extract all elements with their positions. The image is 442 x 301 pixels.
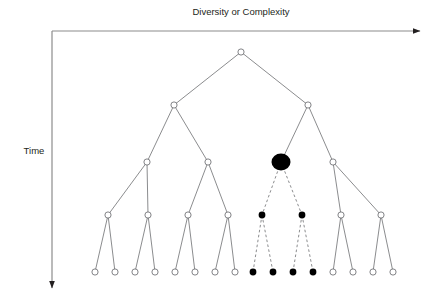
tree-node-open — [152, 269, 158, 275]
branch-solid — [308, 105, 333, 162]
branch-solid — [174, 105, 208, 162]
branch-dashed — [293, 215, 302, 272]
tree-node-open — [212, 269, 218, 275]
tree-node-filled — [259, 212, 266, 219]
branch-solid — [228, 215, 235, 272]
tree-node-filled — [250, 269, 257, 276]
branches-group — [95, 52, 393, 272]
nodes-group — [92, 49, 396, 276]
tree-node-open — [378, 212, 384, 218]
tree-node-open — [105, 212, 111, 218]
tree-node-open — [390, 269, 396, 275]
tree-node-open — [92, 269, 98, 275]
tree-diagram-figure: Diversity or Complexity Time — [0, 0, 442, 301]
tree-node-open — [305, 102, 311, 108]
branch-solid — [188, 162, 208, 215]
tree-node-open — [350, 269, 356, 275]
y-axis-label: Time — [24, 145, 45, 156]
branch-solid — [175, 215, 188, 272]
tree-node-open — [330, 269, 336, 275]
tree-node-open — [225, 212, 231, 218]
tree-node-open — [144, 159, 150, 165]
branch-solid — [95, 215, 108, 272]
diagram-canvas: Diversity or Complexity Time — [0, 0, 442, 301]
x-axis-label: Diversity or Complexity — [192, 6, 289, 17]
branch-solid — [148, 215, 155, 272]
tree-node-filled — [270, 269, 277, 276]
tree-node-filled — [310, 269, 317, 276]
branch-dashed — [253, 215, 262, 272]
branch-solid — [135, 215, 148, 272]
branch-solid — [341, 215, 353, 272]
tree-node-open — [172, 269, 178, 275]
branch-solid — [215, 215, 228, 272]
branch-solid — [108, 215, 115, 272]
branch-solid — [108, 162, 147, 215]
tree-node-highlighted — [272, 154, 291, 171]
branch-solid — [208, 162, 228, 215]
branch-solid — [333, 215, 341, 272]
branch-solid — [188, 215, 195, 272]
tree-node-open — [171, 102, 177, 108]
axes-group — [52, 31, 420, 288]
tree-node-open — [232, 269, 238, 275]
branch-solid — [373, 215, 381, 272]
branch-dashed — [262, 215, 273, 272]
branch-solid — [281, 105, 308, 162]
tree-node-open — [112, 269, 118, 275]
tree-node-open — [370, 269, 376, 275]
tree-node-open — [145, 212, 151, 218]
tree-node-open — [205, 159, 211, 165]
branch-solid — [147, 162, 148, 215]
tree-node-open — [238, 49, 244, 55]
branch-solid — [241, 52, 308, 105]
tree-node-open — [192, 269, 198, 275]
tree-node-open — [185, 212, 191, 218]
tree-node-open — [338, 212, 344, 218]
branch-solid — [147, 105, 174, 162]
branch-dashed — [302, 215, 313, 272]
tree-node-filled — [290, 269, 297, 276]
branch-solid — [174, 52, 241, 105]
tree-node-open — [330, 159, 336, 165]
branch-solid — [381, 215, 393, 272]
tree-node-open — [132, 269, 138, 275]
tree-node-filled — [299, 212, 306, 219]
axis-labels-group: Diversity or Complexity Time — [24, 6, 290, 156]
